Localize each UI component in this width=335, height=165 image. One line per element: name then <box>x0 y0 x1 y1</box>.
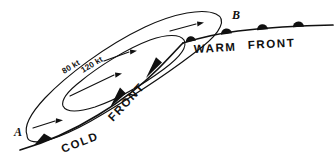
cold-front-word-two: FRONT <box>106 80 147 123</box>
weather-front-diagram: COLD FRONT WARM FRONT 80 kt 120 kt <box>0 0 335 165</box>
warm-front-bump-2 <box>221 28 232 34</box>
isotach-outer-80kt <box>26 12 221 142</box>
flow-arrow-3 <box>104 50 137 62</box>
flow-arrow-1 <box>33 118 63 128</box>
endpoint-label-b: B <box>231 8 240 22</box>
warm-front-bump-3 <box>257 24 268 30</box>
isotach-label-group: 80 kt 120 kt <box>60 55 104 76</box>
warm-front-bump-4 <box>293 21 304 27</box>
diagram-canvas: COLD FRONT WARM FRONT 80 kt 120 kt <box>0 0 335 165</box>
warm-front-group: WARM FRONT <box>183 21 333 55</box>
warm-front-word-two: FRONT <box>247 37 295 51</box>
cold-front-barb-1 <box>34 134 53 146</box>
endpoint-label-a: A <box>13 125 22 139</box>
isotach-contour-group <box>26 12 221 142</box>
isotach-label-120kt: 120 kt <box>79 55 104 75</box>
cold-front-barbs <box>34 57 162 145</box>
flow-arrow-4 <box>170 21 204 31</box>
endpoint-label-group: A B <box>13 8 240 139</box>
warm-front-word-one: WARM <box>193 41 236 55</box>
